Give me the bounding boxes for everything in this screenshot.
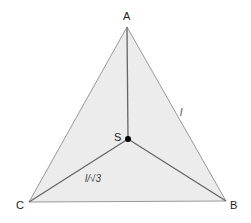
edge-length-label: l xyxy=(180,107,183,118)
triangle-diagram: A B C S l l/√3 xyxy=(0,0,251,223)
vertex-label-b: B xyxy=(230,199,237,211)
center-label-s: S xyxy=(114,131,121,143)
vertex-label-a: A xyxy=(123,10,131,22)
vertex-label-c: C xyxy=(16,199,24,211)
center-point-s xyxy=(125,136,131,142)
spoke-length-label: l/√3 xyxy=(85,173,101,184)
